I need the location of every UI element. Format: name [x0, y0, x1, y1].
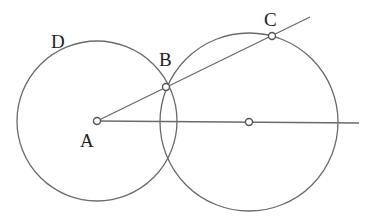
label-c: C — [264, 9, 277, 30]
label-a: A — [80, 130, 94, 151]
geometry-diagram: A B C D — [0, 0, 368, 221]
label-d: D — [51, 31, 65, 52]
point-b — [163, 84, 170, 91]
ray-horizontal — [97, 121, 359, 123]
point-a — [94, 118, 101, 125]
label-b: B — [159, 49, 172, 70]
ray-abc — [97, 17, 310, 121]
point-c — [269, 33, 276, 40]
point-center — [246, 119, 253, 126]
